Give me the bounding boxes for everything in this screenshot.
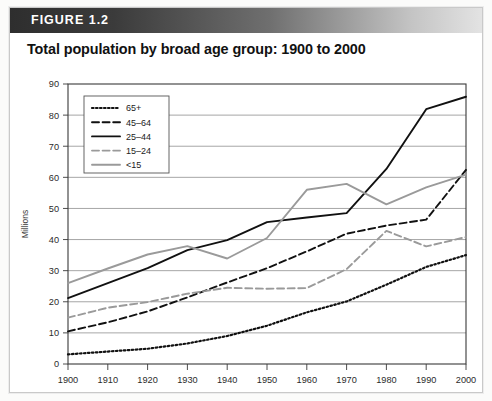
series-line-65 — [68, 255, 466, 354]
x-tick-label-2000: 2000 — [456, 375, 476, 385]
x-tick-label-1940: 1940 — [217, 375, 237, 385]
y-tick-label-40: 40 — [49, 235, 59, 245]
line-chart: 0102030405060708090 19001910192019301940… — [10, 66, 484, 394]
y-tick-label-90: 90 — [49, 79, 59, 89]
x-tick-label-1900: 1900 — [58, 375, 78, 385]
x-tick-label-1910: 1910 — [98, 375, 118, 385]
x-tick-label-1980: 1980 — [376, 375, 396, 385]
y-tick-label-30: 30 — [49, 266, 59, 276]
figure-card: FIGURE 1.2 Total population by broad age… — [9, 7, 483, 393]
series-line-45-64 — [68, 170, 466, 331]
x-tick-label-1950: 1950 — [257, 375, 277, 385]
y-tick-label-70: 70 — [49, 142, 59, 152]
y-tick-label-80: 80 — [49, 111, 59, 121]
series-line-15 — [68, 175, 466, 284]
figure-number-label: FIGURE 1.2 — [31, 13, 109, 27]
figure-page: FIGURE 1.2 Total population by broad age… — [0, 0, 492, 401]
figure-title: Total population by broad age group: 190… — [27, 41, 366, 57]
y-axis-tick-labels: 0102030405060708090 — [49, 79, 68, 369]
x-tick-label-1970: 1970 — [336, 375, 356, 385]
legend-label-3: 15–24 — [126, 146, 151, 156]
x-tick-label-1930: 1930 — [177, 375, 197, 385]
y-tick-label-60: 60 — [49, 173, 59, 183]
y-tick-label-50: 50 — [49, 204, 59, 214]
x-tick-label-1920: 1920 — [137, 375, 157, 385]
series-line-15-24 — [68, 231, 466, 318]
y-axis-title: Millions — [20, 210, 30, 238]
legend-label-4: <15 — [126, 160, 141, 170]
y-tick-label-10: 10 — [49, 328, 59, 338]
legend-label-2: 25–44 — [126, 132, 151, 142]
x-tick-label-1960: 1960 — [297, 375, 317, 385]
chart-legend: 65+45–6425–4415–24<15 — [84, 96, 169, 173]
y-tick-label-20: 20 — [49, 297, 59, 307]
x-axis-tick-labels: 1900191019201930194019501960197019801990… — [58, 364, 476, 385]
legend-label-0: 65+ — [126, 103, 141, 113]
legend-label-1: 45–64 — [126, 118, 151, 128]
y-tick-label-0: 0 — [54, 359, 59, 369]
chart-area: 0102030405060708090 19001910192019301940… — [10, 66, 484, 394]
x-tick-label-1990: 1990 — [416, 375, 436, 385]
